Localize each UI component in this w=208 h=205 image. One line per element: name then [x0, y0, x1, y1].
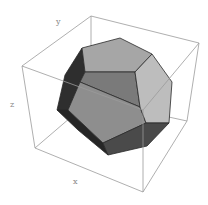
axis-label-y: y — [55, 17, 61, 26]
axis-label-z: z — [10, 100, 14, 109]
axis-label-x: x — [73, 177, 78, 186]
dodecahedron-3d-plot: y z x — [0, 0, 208, 205]
